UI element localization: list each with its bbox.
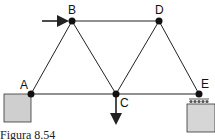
- label-d: D: [155, 3, 164, 17]
- member-de: [159, 21, 199, 94]
- truss-members: [31, 21, 199, 94]
- node-a: [28, 91, 35, 98]
- label-c: C: [120, 96, 129, 110]
- node-c: [113, 91, 120, 98]
- support-a: [4, 94, 31, 122]
- label-e: E: [201, 77, 209, 91]
- truss-diagram: A B C D E Figura 8.54: [0, 0, 215, 140]
- member-ab: [31, 21, 72, 94]
- member-bc: [72, 21, 116, 94]
- label-a: A: [20, 78, 28, 92]
- figure-caption: Figura 8.54: [0, 128, 55, 140]
- member-cd: [116, 21, 159, 94]
- node-e: [196, 91, 203, 98]
- label-b: B: [68, 3, 76, 17]
- support-e: [187, 99, 215, 132]
- node-d: [156, 18, 163, 25]
- node-b: [69, 18, 76, 25]
